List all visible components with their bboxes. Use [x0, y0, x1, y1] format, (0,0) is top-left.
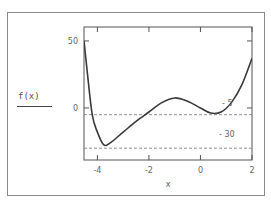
marker-label-minus5: - 5	[222, 99, 233, 108]
x-tick-label: -2	[145, 166, 153, 175]
x-axis-label[interactable]: x	[166, 180, 171, 189]
marker-label-minus30: - 30	[219, 130, 235, 139]
plot-canvas: -4-202500- 5- 30x	[0, 0, 271, 204]
x-tick-label: -4	[93, 166, 101, 175]
x-tick-label: 0	[198, 166, 203, 175]
x-tick-label: 2	[249, 166, 254, 175]
y-tick-label: 0	[73, 104, 78, 113]
plot-frame	[84, 27, 252, 160]
y-tick-label: 50	[68, 37, 78, 46]
